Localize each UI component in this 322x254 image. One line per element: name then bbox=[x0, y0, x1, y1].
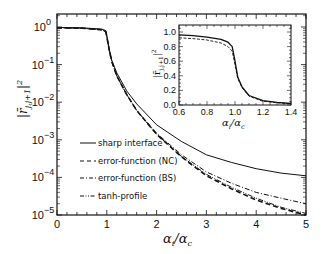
y-tick-5: 10 bbox=[32, 209, 44, 221]
y-tick-2: 10 bbox=[32, 96, 44, 108]
svg-text:|r̄j,j+1|2: |r̄j,j+1|2 bbox=[15, 80, 32, 118]
inset-plot-frame bbox=[179, 25, 291, 105]
svg-text:0.8: 0.8 bbox=[201, 107, 214, 117]
y-tick-3: 10 bbox=[32, 134, 44, 146]
svg-text:tanh-profile: tanh-profile bbox=[98, 191, 147, 201]
inset-x-label: αi/αc bbox=[222, 117, 245, 131]
x-tick-4: 4 bbox=[253, 218, 259, 230]
svg-text:0.6: 0.6 bbox=[163, 56, 176, 66]
chart: 0 1 2 3 4 5 10 0 10 −1 10 −2 10 −3 10 −4… bbox=[0, 0, 322, 254]
legend-item-tanh-profile: tanh-profile bbox=[80, 191, 147, 201]
y-tick-labels: 10 0 10 −1 10 −2 10 −3 10 −4 10 −5 bbox=[32, 17, 55, 221]
y-tick-exp-3: −3 bbox=[44, 130, 54, 140]
inset-y-label: |r̄j,j+1|2 bbox=[150, 49, 165, 78]
svg-text:error-function (BS): error-function (BS) bbox=[98, 173, 176, 183]
y-tick-exp-0: 0 bbox=[46, 17, 51, 27]
svg-text:1.2: 1.2 bbox=[257, 107, 270, 117]
x-tick-0: 0 bbox=[54, 218, 60, 230]
y-tick-exp-2: −2 bbox=[44, 92, 54, 102]
legend-item-error-function-bs: error-function (BS) bbox=[80, 173, 176, 183]
svg-text:0.2: 0.2 bbox=[163, 85, 176, 95]
svg-text:1.0: 1.0 bbox=[163, 27, 176, 37]
inset-y-tick-labels: 0.0 0.2 0.4 0.6 0.8 1.0 bbox=[163, 27, 176, 110]
y-tick-0: 10 bbox=[34, 21, 46, 33]
svg-text:0.4: 0.4 bbox=[163, 71, 176, 81]
x-tick-1: 1 bbox=[104, 218, 110, 230]
y-tick-exp-5: −5 bbox=[44, 205, 54, 215]
x-axis-label: αi/αc bbox=[163, 231, 193, 248]
svg-text:αi/αc: αi/αc bbox=[222, 117, 245, 131]
x-tick-2: 2 bbox=[154, 218, 160, 230]
y-tick-exp-1: −1 bbox=[44, 55, 54, 65]
svg-text:0.0: 0.0 bbox=[163, 100, 176, 110]
x-tick-5: 5 bbox=[303, 218, 309, 230]
svg-text:αi/αc: αi/αc bbox=[163, 231, 193, 248]
svg-text:error-function (NC): error-function (NC) bbox=[98, 156, 177, 166]
svg-text:0.8: 0.8 bbox=[163, 42, 176, 52]
legend-item-sharp-interface: sharp interface bbox=[80, 138, 163, 148]
y-axis-label: |r̄j,j+1|2 bbox=[15, 80, 32, 118]
legend: sharp interface error-function (NC) erro… bbox=[80, 138, 177, 201]
svg-text:|r̄j,j+1|2: |r̄j,j+1|2 bbox=[150, 49, 165, 78]
x-tick-3: 3 bbox=[203, 218, 209, 230]
y-tick-1: 10 bbox=[32, 59, 44, 71]
svg-text:1.4: 1.4 bbox=[285, 107, 298, 117]
legend-item-error-function-nc: error-function (NC) bbox=[80, 156, 177, 166]
inset-x-tick-labels: 0.6 0.8 1.0 1.2 1.4 bbox=[173, 107, 298, 117]
svg-text:sharp interface: sharp interface bbox=[98, 138, 163, 148]
y-tick-exp-4: −4 bbox=[44, 167, 54, 177]
y-tick-4: 10 bbox=[32, 171, 44, 183]
svg-text:1.0: 1.0 bbox=[229, 107, 242, 117]
